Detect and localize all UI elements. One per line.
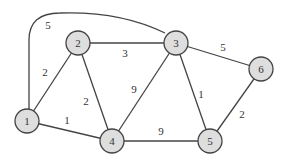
weight-1-2: 2	[42, 66, 48, 78]
weight-4-5: 9	[158, 125, 164, 137]
weight-1-3: 5	[45, 19, 51, 31]
node-5: 5	[198, 129, 222, 153]
weight-2-4: 2	[83, 95, 89, 107]
edges	[27, 13, 261, 141]
weight-5-6: 2	[239, 108, 245, 120]
edge-3-5	[176, 43, 210, 141]
edge-5-6	[210, 69, 261, 141]
node-6: 6	[249, 57, 273, 81]
weight-3-6: 5	[220, 41, 226, 53]
node-3: 3	[164, 31, 188, 55]
weight-2-3: 3	[122, 47, 128, 59]
node-3-label: 3	[173, 37, 179, 49]
node-1-label: 1	[24, 115, 30, 127]
weighted-graph-diagram: 5 2 1 3 2 9 1 5 9 2 1 2 3 4 5	[0, 0, 285, 164]
node-4-label: 4	[109, 135, 115, 147]
node-1: 1	[15, 109, 39, 133]
node-2-label: 2	[75, 37, 81, 49]
edge-2-4	[78, 43, 112, 141]
node-6-label: 6	[258, 63, 264, 75]
weight-1-4: 1	[64, 114, 70, 126]
node-5-label: 5	[207, 135, 213, 147]
edge-1-2	[27, 43, 78, 121]
weight-3-5: 1	[198, 88, 204, 100]
node-4: 4	[100, 129, 124, 153]
node-2: 2	[66, 31, 90, 55]
edge-3-6	[176, 43, 261, 69]
weight-3-4: 9	[131, 83, 137, 95]
